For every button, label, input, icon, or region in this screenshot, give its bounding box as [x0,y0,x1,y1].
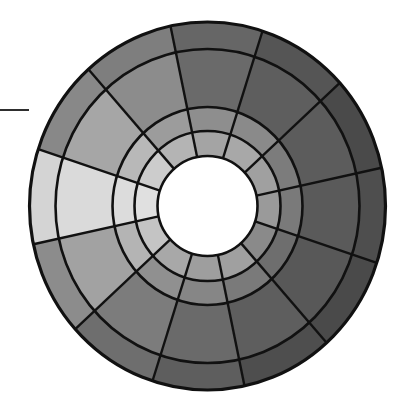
value-wheel [0,0,411,419]
center-hole [158,156,258,256]
